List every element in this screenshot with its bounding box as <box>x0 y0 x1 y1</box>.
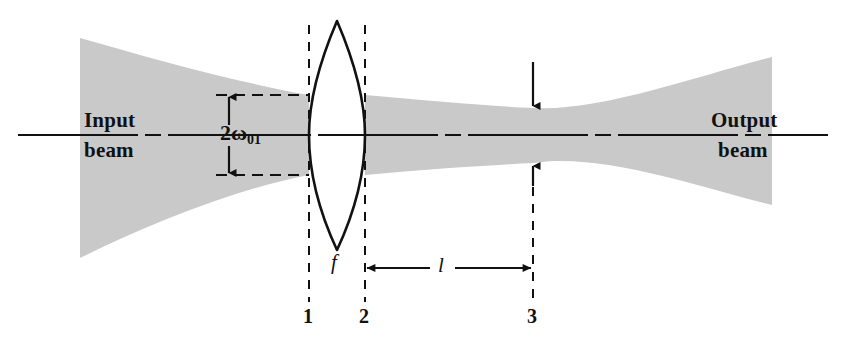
input-beam-label-line1: Input <box>84 109 135 131</box>
plane-3-label: 3 <box>527 306 537 327</box>
input-beam-label-line2: beam <box>84 139 134 161</box>
output-beam-label-line1: Output <box>711 109 778 131</box>
plane-1-label: 1 <box>303 306 313 327</box>
optics-figure: Input beam Output beam 2ω01 f l 1 2 3 <box>0 0 841 342</box>
beam-diagram-canvas <box>0 0 841 342</box>
beam-waist-dimension-label: 2ω01 <box>220 121 261 148</box>
plane-2-label: 2 <box>359 306 369 327</box>
beam-waist-dimension-text: 2ω <box>220 120 247 145</box>
distance-label: l <box>438 254 444 276</box>
beam-waist-dimension-subscript: 01 <box>247 132 261 147</box>
focal-length-label: f <box>331 251 337 273</box>
output-beam-label-line2: beam <box>718 139 768 161</box>
